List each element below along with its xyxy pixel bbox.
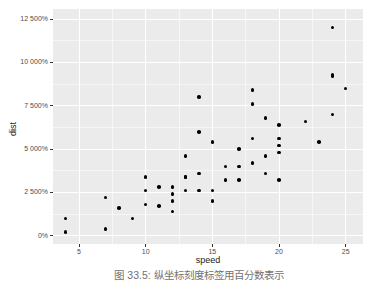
x-axis-tick-label: 10 [142,248,150,256]
data-point [277,144,281,148]
data-point [171,185,175,189]
x-axis-tick-label: 20 [275,248,283,256]
gridline-major-horizontal [53,105,363,106]
data-point [251,88,255,92]
data-point [211,140,215,144]
data-point [277,178,281,182]
x-axis-tick-mark [212,244,213,247]
gridline-major-vertical [212,9,213,244]
gridline-minor-horizontal [53,127,363,128]
data-point [237,147,241,151]
x-axis-tick-mark [279,244,280,247]
y-axis-tick-label: 5 000% [24,145,48,153]
data-point [317,140,321,144]
data-point [264,154,268,158]
data-point [251,161,255,165]
x-axis-title: speed [196,255,221,265]
data-point [144,175,148,179]
data-point [277,151,281,155]
data-point [117,206,121,210]
gridline-major-horizontal [53,149,363,150]
data-point [171,199,175,203]
data-point [211,199,215,203]
data-point [264,116,268,120]
data-point [131,217,135,221]
y-axis-tick-mark [50,19,53,20]
y-axis-tick-mark [50,235,53,236]
data-point [224,165,228,169]
gridline-major-horizontal [53,19,363,20]
data-point [331,113,335,117]
data-point [264,172,268,176]
y-axis-title: dist [8,122,18,136]
y-axis-tick-label: 2 500% [24,188,48,196]
data-point [251,102,255,106]
gridline-major-vertical [345,9,346,244]
data-point [184,175,188,179]
data-point [304,120,308,124]
data-point [331,26,335,30]
gridline-major-horizontal [53,235,363,236]
gridline-major-horizontal [53,62,363,63]
data-point [171,192,175,196]
y-axis-tick-label: 10 000% [20,58,48,66]
gridline-major-vertical [79,9,80,244]
data-point [344,87,348,91]
y-axis-tick-mark [50,192,53,193]
plot-panel [53,9,363,244]
y-axis-tick-mark [50,149,53,150]
y-axis-tick-mark [50,105,53,106]
gridline-minor-horizontal [53,40,363,41]
data-point [157,204,161,208]
y-axis-tick-mark [50,62,53,63]
data-point [237,165,241,169]
data-point [277,137,281,141]
data-point [144,203,148,207]
x-axis-tick-mark [145,244,146,247]
gridline-major-horizontal [53,192,363,193]
data-point [251,137,255,141]
data-point [184,154,188,158]
y-axis-tick-label: 7 500% [24,102,48,110]
gridline-minor-horizontal [53,170,363,171]
data-point [237,178,241,182]
data-point [197,95,201,99]
data-point [64,230,68,234]
gridline-minor-horizontal [53,84,363,85]
x-axis-tick-mark [345,244,346,247]
y-axis-tick-label: 0% [38,232,48,240]
data-point [277,123,281,127]
data-point [104,196,108,200]
data-point [157,185,161,189]
data-point [224,178,228,182]
scatter-plot-figure: dist speed 图 33.5: 纵坐标刻度标签用百分数表示 5101520… [0,0,372,282]
figure-caption: 图 33.5: 纵坐标刻度标签用百分数表示 [114,269,283,282]
data-point [104,227,108,231]
gridline-major-vertical [145,9,146,244]
data-point [64,217,68,221]
x-axis-tick-mark [79,244,80,247]
x-axis-tick-label: 5 [77,248,81,256]
gridline-minor-horizontal [53,214,363,215]
data-point [197,130,201,134]
x-axis-tick-label: 25 [342,248,350,256]
data-point [197,172,201,176]
x-axis-tick-label: 15 [208,248,216,256]
y-axis-tick-label: 12 500% [20,15,48,23]
